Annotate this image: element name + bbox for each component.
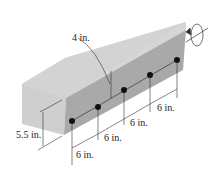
- bottom-offset-label: 5.5 in.: [16, 130, 41, 140]
- rod-5: [174, 57, 180, 63]
- rod-1: [69, 118, 75, 124]
- spacing-label-3: 6 in.: [130, 118, 148, 128]
- spacing-label-2: 6 in.: [104, 133, 122, 143]
- beam-diagram: 4 in. 5.5 in. 6 in. 6 in. 6 in. 6 in.: [0, 0, 219, 176]
- spacing-label-4: 6 in.: [157, 103, 175, 113]
- rod-3: [121, 87, 127, 93]
- rod-depth-label: 4 in.: [72, 33, 90, 43]
- rod-4: [147, 72, 153, 78]
- beam-drawing: [0, 0, 219, 176]
- torque-arrow-icon: [186, 24, 208, 46]
- rod-2: [95, 104, 101, 110]
- spacing-label-1: 6 in.: [76, 150, 94, 160]
